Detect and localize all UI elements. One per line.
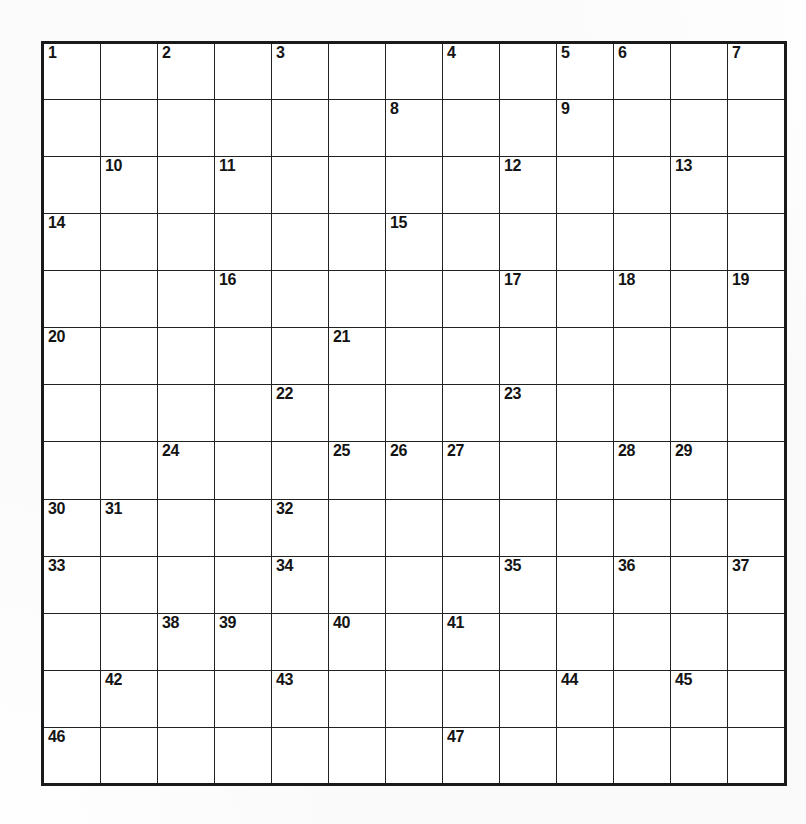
grid-cell-light[interactable] <box>386 556 443 613</box>
grid-cell-light[interactable] <box>500 214 557 271</box>
grid-cell-light[interactable] <box>671 214 728 271</box>
grid-cell-light[interactable] <box>215 214 272 271</box>
grid-cell-light[interactable] <box>671 271 728 328</box>
grid-cell-light[interactable]: 24 <box>158 442 215 499</box>
grid-cell-light[interactable] <box>43 100 101 157</box>
grid-cell-light[interactable] <box>158 499 215 556</box>
grid-cell-light[interactable]: 8 <box>386 100 443 157</box>
grid-cell-light[interactable] <box>329 556 386 613</box>
grid-cell-light[interactable] <box>500 442 557 499</box>
grid-cell-light[interactable] <box>158 670 215 727</box>
grid-cell-light[interactable] <box>43 442 101 499</box>
grid-cell-light[interactable] <box>443 499 500 556</box>
grid-cell-light[interactable]: 14 <box>43 214 101 271</box>
grid-cell-light[interactable] <box>215 442 272 499</box>
grid-cell-light[interactable]: 32 <box>272 499 329 556</box>
grid-cell-light[interactable] <box>500 727 557 784</box>
grid-cell-light[interactable]: 28 <box>614 442 671 499</box>
grid-cell-light[interactable] <box>443 214 500 271</box>
grid-cell-light[interactable] <box>215 328 272 385</box>
grid-cell-light[interactable]: 44 <box>557 670 614 727</box>
grid-cell-light[interactable]: 12 <box>500 157 557 214</box>
grid-cell-light[interactable] <box>671 499 728 556</box>
grid-cell-light[interactable] <box>557 157 614 214</box>
grid-cell-light[interactable] <box>614 157 671 214</box>
grid-cell-light[interactable]: 34 <box>272 556 329 613</box>
grid-cell-light[interactable]: 20 <box>43 328 101 385</box>
grid-cell-light[interactable]: 35 <box>500 556 557 613</box>
grid-cell-light[interactable] <box>557 727 614 784</box>
grid-cell-light[interactable] <box>671 556 728 613</box>
grid-cell-light[interactable]: 18 <box>614 271 671 328</box>
grid-cell-light[interactable]: 38 <box>158 613 215 670</box>
grid-cell-light[interactable]: 17 <box>500 271 557 328</box>
grid-cell-light[interactable]: 46 <box>43 727 101 784</box>
grid-cell-light[interactable] <box>500 499 557 556</box>
grid-cell-light[interactable] <box>101 214 158 271</box>
grid-cell-light[interactable] <box>614 328 671 385</box>
grid-cell-light[interactable]: 23 <box>500 385 557 442</box>
grid-cell-light[interactable] <box>728 727 786 784</box>
grid-cell-light[interactable] <box>158 157 215 214</box>
grid-cell-light[interactable]: 29 <box>671 442 728 499</box>
grid-cell-light[interactable]: 37 <box>728 556 786 613</box>
grid-cell-light[interactable]: 39 <box>215 613 272 670</box>
grid-cell-light[interactable] <box>728 100 786 157</box>
grid-cell-light[interactable] <box>614 727 671 784</box>
grid-cell-light[interactable] <box>386 499 443 556</box>
grid-cell-light[interactable]: 42 <box>101 670 158 727</box>
grid-cell-light[interactable] <box>272 100 329 157</box>
grid-cell-light[interactable] <box>215 670 272 727</box>
grid-cell-light[interactable]: 4 <box>443 43 500 100</box>
grid-cell-light[interactable]: 15 <box>386 214 443 271</box>
grid-cell-light[interactable] <box>386 271 443 328</box>
grid-cell-light[interactable] <box>329 670 386 727</box>
grid-cell-light[interactable] <box>728 613 786 670</box>
grid-cell-light[interactable] <box>728 328 786 385</box>
grid-cell-light[interactable]: 30 <box>43 499 101 556</box>
grid-cell-light[interactable]: 16 <box>215 271 272 328</box>
grid-cell-light[interactable]: 11 <box>215 157 272 214</box>
grid-cell-light[interactable] <box>728 385 786 442</box>
grid-cell-light[interactable]: 26 <box>386 442 443 499</box>
grid-cell-light[interactable] <box>557 271 614 328</box>
grid-cell-light[interactable] <box>158 100 215 157</box>
grid-cell-light[interactable]: 1 <box>43 43 101 100</box>
grid-cell-light[interactable]: 33 <box>43 556 101 613</box>
grid-cell-light[interactable] <box>43 385 101 442</box>
grid-cell-light[interactable]: 27 <box>443 442 500 499</box>
grid-cell-light[interactable] <box>728 670 786 727</box>
grid-cell-light[interactable]: 41 <box>443 613 500 670</box>
grid-cell-light[interactable]: 2 <box>158 43 215 100</box>
grid-cell-light[interactable] <box>101 556 158 613</box>
grid-cell-light[interactable] <box>443 100 500 157</box>
grid-cell-light[interactable] <box>101 328 158 385</box>
grid-cell-light[interactable] <box>557 385 614 442</box>
grid-cell-light[interactable]: 13 <box>671 157 728 214</box>
grid-cell-light[interactable]: 36 <box>614 556 671 613</box>
grid-cell-light[interactable] <box>329 43 386 100</box>
grid-cell-light[interactable]: 31 <box>101 499 158 556</box>
grid-cell-light[interactable]: 25 <box>329 442 386 499</box>
grid-cell-light[interactable] <box>500 328 557 385</box>
grid-cell-light[interactable]: 22 <box>272 385 329 442</box>
grid-cell-light[interactable] <box>500 43 557 100</box>
grid-cell-light[interactable]: 40 <box>329 613 386 670</box>
grid-cell-light[interactable]: 45 <box>671 670 728 727</box>
grid-cell-light[interactable] <box>728 442 786 499</box>
grid-cell-light[interactable]: 21 <box>329 328 386 385</box>
grid-cell-light[interactable] <box>671 43 728 100</box>
grid-cell-light[interactable] <box>614 100 671 157</box>
grid-cell-light[interactable] <box>101 43 158 100</box>
grid-cell-light[interactable]: 19 <box>728 271 786 328</box>
grid-cell-light[interactable] <box>272 271 329 328</box>
grid-cell-light[interactable] <box>443 670 500 727</box>
grid-cell-light[interactable] <box>272 442 329 499</box>
grid-cell-light[interactable] <box>386 328 443 385</box>
grid-cell-light[interactable] <box>329 499 386 556</box>
grid-cell-light[interactable] <box>158 727 215 784</box>
grid-cell-light[interactable] <box>614 613 671 670</box>
grid-cell-light[interactable] <box>614 385 671 442</box>
grid-cell-light[interactable] <box>557 556 614 613</box>
grid-cell-light[interactable]: 5 <box>557 43 614 100</box>
